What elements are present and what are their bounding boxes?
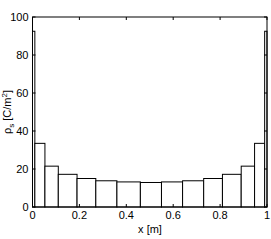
y-tick-label: 40 [16, 125, 28, 137]
x-tick-label: 0.6 [166, 209, 181, 221]
x-axis-label: x [m] [138, 223, 162, 235]
histogram-bar [45, 166, 58, 207]
histogram-bar [58, 174, 77, 207]
histogram-bar [96, 181, 117, 207]
histogram-bar [183, 181, 204, 207]
x-tick-label: 0.8 [212, 209, 227, 221]
y-axis-label: ρs [C/m2] [0, 90, 16, 134]
y-tick-label: 20 [16, 163, 28, 175]
x-tick-label: 1 [264, 209, 270, 221]
y-tick-label: 0 [22, 201, 28, 213]
histogram-bar [77, 179, 96, 208]
histogram-bar [140, 182, 161, 207]
histogram-bar [117, 182, 140, 207]
bars-group [33, 31, 268, 207]
histogram-bar [241, 166, 254, 207]
x-tick-label: 0.2 [72, 209, 87, 221]
histogram-bar [35, 143, 45, 207]
histogram-bar [161, 182, 182, 207]
bar-chart: 00.20.40.60.81 020406080100 x [m] ρs [C/… [0, 0, 271, 239]
x-tick-label: 0 [29, 209, 35, 221]
histogram-bar [204, 179, 223, 208]
y-tick-label: 100 [10, 11, 28, 23]
y-tick-label: 80 [16, 49, 28, 61]
svg-text:ρs [C/m2]: ρs [C/m2] [0, 90, 16, 134]
histogram-bar [222, 174, 241, 207]
y-tick-label: 60 [16, 87, 28, 99]
histogram-bar [255, 143, 265, 207]
x-tick-label: 0.4 [119, 209, 134, 221]
